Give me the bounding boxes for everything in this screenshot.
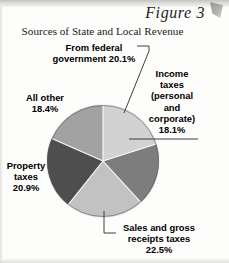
scan-bottom-edge-artifact xyxy=(0,258,229,263)
figure-number-label: Figure 3 xyxy=(145,4,205,22)
slice-label-sales: Sales and gross receipts taxes 22.5% xyxy=(116,222,202,256)
slice-label-income: Income taxes (personal and corporate) 18… xyxy=(143,68,201,135)
figure-title: Sources of State and Local Revenue xyxy=(0,25,205,37)
scan-left-edge-artifact xyxy=(0,7,3,263)
figure-page: Figure 3 Sources of State and Local Reve… xyxy=(0,0,229,263)
slice-label-property: Property taxes 20.9% xyxy=(0,160,52,194)
slice-label-all-other: All other 18.4% xyxy=(21,92,69,114)
slice-label-federal: From federal government 20.1% xyxy=(52,42,136,64)
